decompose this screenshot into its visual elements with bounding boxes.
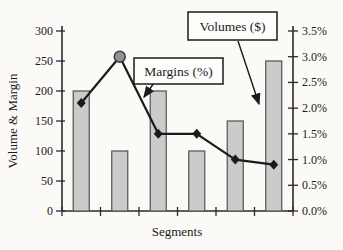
margins-label: Margins (%) bbox=[144, 64, 212, 79]
left-axis-tick-label: 250 bbox=[35, 54, 53, 68]
bar bbox=[112, 151, 128, 211]
axes bbox=[62, 26, 293, 211]
chart-figure: 050100150200250300 0.0%0.5%1.0%1.5%2.0%2… bbox=[0, 0, 343, 250]
left-axis-tick-label: 150 bbox=[35, 114, 53, 128]
line-marker-diamond bbox=[192, 129, 201, 139]
left-axis-tick-label: 200 bbox=[35, 84, 53, 98]
combo-chart: 050100150200250300 0.0%0.5%1.0%1.5%2.0%2… bbox=[0, 0, 343, 250]
left-axis-tick-label: 100 bbox=[35, 144, 53, 158]
left-axis-tick-label: 50 bbox=[41, 174, 53, 188]
bar bbox=[189, 151, 205, 211]
annotation-margins: Margins (%) bbox=[134, 58, 223, 97]
right-axis-tick-label: 0.0% bbox=[302, 204, 327, 218]
bar bbox=[227, 121, 243, 211]
left-axis-tick-label: 300 bbox=[35, 24, 53, 38]
right-axis-tick-label: 3.5% bbox=[302, 24, 327, 38]
line-marker-circle bbox=[114, 51, 125, 62]
right-axis-tick-label: 3.0% bbox=[302, 50, 327, 64]
left-axis-ticks: 050100150200250300 bbox=[35, 24, 65, 218]
right-axis-tick-label: 2.0% bbox=[302, 101, 327, 115]
bar bbox=[73, 91, 89, 211]
volumes-label: Volumes ($) bbox=[199, 19, 265, 34]
right-axis-tick-label: 1.5% bbox=[302, 127, 327, 141]
right-axis-tick-label: 2.5% bbox=[302, 75, 327, 89]
right-axis-tick-label: 0.5% bbox=[302, 178, 327, 192]
right-axis-tick-label: 1.0% bbox=[302, 153, 327, 167]
x-axis-title: Segments bbox=[152, 224, 203, 239]
right-axis-ticks: 0.0%0.5%1.0%1.5%2.0%2.5%3.0%3.5% bbox=[288, 24, 327, 218]
volumes-arrow bbox=[238, 41, 259, 104]
left-axis-title: Volume & Margin bbox=[5, 73, 20, 168]
bar bbox=[150, 91, 166, 211]
left-axis-tick-label: 0 bbox=[47, 204, 53, 218]
bar bbox=[266, 61, 282, 211]
